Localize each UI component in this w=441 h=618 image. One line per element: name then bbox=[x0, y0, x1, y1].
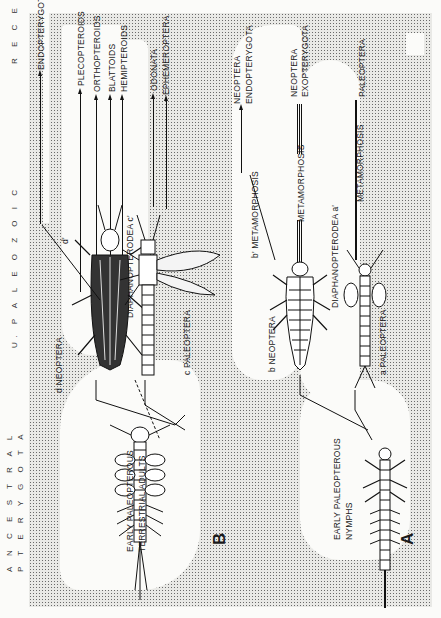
branch-lines bbox=[0, 0, 441, 618]
